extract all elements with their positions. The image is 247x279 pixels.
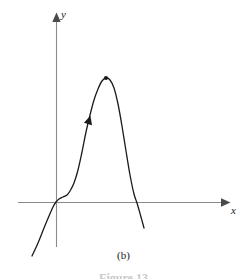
figure-panel: y x (b) Figure 13 xyxy=(0,0,247,279)
figure-caption: (b) xyxy=(0,250,247,261)
x-axis-label: x xyxy=(231,205,236,216)
function-curve xyxy=(32,78,144,256)
figure-number: Figure 13 xyxy=(0,272,247,279)
local-maximum-dot xyxy=(104,76,108,80)
y-axis-label: y xyxy=(61,9,66,20)
x-axis-arrow-icon xyxy=(221,198,231,206)
plot-canvas xyxy=(0,0,247,279)
y-axis-arrow-icon xyxy=(52,13,60,23)
